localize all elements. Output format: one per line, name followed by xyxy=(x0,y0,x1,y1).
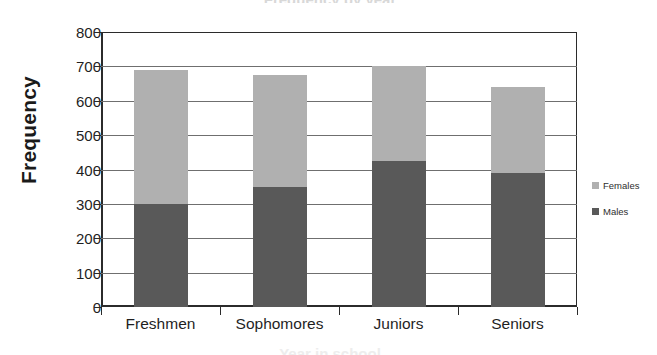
y-axis: 0100200300400500600700800 xyxy=(47,32,101,307)
x-axis-labels: FreshmenSophomoresJuniorsSeniors xyxy=(101,315,577,337)
bar-group[interactable] xyxy=(372,32,426,307)
bar-segment-males[interactable] xyxy=(134,204,188,307)
legend-item-males[interactable]: Males xyxy=(592,203,656,220)
legend-swatch-icon xyxy=(592,208,599,215)
legend-swatch-icon xyxy=(592,182,599,189)
bar-segment-females[interactable] xyxy=(253,75,307,187)
x-tick-label-juniors: Juniors xyxy=(374,315,424,333)
legend-label: Males xyxy=(603,206,628,217)
bars-layer xyxy=(101,32,577,307)
x-tick-mark xyxy=(577,307,578,315)
legend: FemalesMales xyxy=(592,177,656,229)
x-axis-title-cut-off: Year in school xyxy=(140,345,520,355)
bar-segment-males[interactable] xyxy=(372,161,426,307)
chart-title-cut-off: Frequency by year xyxy=(120,0,540,3)
y-tick-mark xyxy=(94,170,101,171)
bar-segment-females[interactable] xyxy=(372,66,426,161)
x-tick-mark xyxy=(101,307,102,315)
bar-segment-females[interactable] xyxy=(134,70,188,204)
y-tick-mark xyxy=(94,101,101,102)
bar-segment-males[interactable] xyxy=(253,187,307,307)
x-tick-label-seniors: Seniors xyxy=(491,315,544,333)
x-tick-mark xyxy=(339,307,340,315)
bar-segment-males[interactable] xyxy=(491,173,545,307)
bar-group[interactable] xyxy=(134,32,188,307)
bar-segment-females[interactable] xyxy=(491,87,545,173)
legend-item-females[interactable]: Females xyxy=(592,177,656,194)
x-tick-mark xyxy=(458,307,459,315)
x-tick-mark xyxy=(220,307,221,315)
bar-group[interactable] xyxy=(253,32,307,307)
y-tick-mark xyxy=(94,32,101,33)
y-tick-mark xyxy=(94,307,101,308)
legend-label: Females xyxy=(603,180,639,191)
y-tick-mark xyxy=(94,238,101,239)
y-tick-mark xyxy=(94,66,101,67)
plot-area xyxy=(101,32,577,307)
y-tick-mark xyxy=(94,204,101,205)
y-axis-title: Frequency xyxy=(17,55,41,205)
y-tick-mark xyxy=(94,273,101,274)
bar-group[interactable] xyxy=(491,32,545,307)
x-tick-label-freshmen: Freshmen xyxy=(126,315,196,333)
y-tick-mark xyxy=(94,135,101,136)
x-tick-label-sophomores: Sophomores xyxy=(236,315,324,333)
